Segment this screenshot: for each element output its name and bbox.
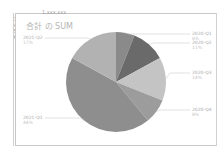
data-label-2021-q1: 2021-Q144%	[23, 115, 43, 125]
pie-chart[interactable]	[0, 0, 224, 160]
leader-line	[156, 110, 190, 111]
leader-line	[125, 33, 190, 34]
leader-line	[45, 38, 91, 39]
leader-line	[45, 118, 84, 121]
data-label-2020-q2: 2020-Q211%	[192, 40, 212, 50]
leader-line	[166, 73, 190, 79]
leader-line	[149, 43, 190, 44]
data-label-2020-q4: 2020-Q48%	[192, 107, 212, 117]
data-label-2020-q3: 2020-Q314%	[192, 70, 212, 80]
data-label-2021-q2: 2021-Q217%	[23, 35, 43, 45]
